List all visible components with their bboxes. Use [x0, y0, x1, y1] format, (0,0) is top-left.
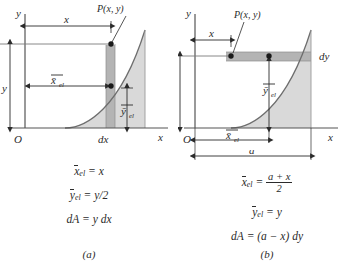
- leader-line-p-a: [112, 16, 126, 42]
- y-axis-label-a: y: [15, 7, 21, 19]
- dimension-label-xel-a: x̄ el: [50, 74, 64, 89]
- panel-caption-a: (a): [0, 248, 178, 260]
- origin-label-a: O: [14, 133, 22, 145]
- equation-xel-b: xel = a + x2: [178, 172, 356, 195]
- equation-xel-a: xel = x: [0, 166, 178, 178]
- svg-text:x̄: x̄: [225, 129, 231, 141]
- y-axis-label-b: y: [185, 7, 191, 19]
- svg-text:ȳ: ȳ: [262, 84, 269, 96]
- leader-line-p-b: [233, 22, 244, 53]
- figure-panel-b: y x O P(x, y) x y dy ȳ el x̄ el: [178, 0, 356, 270]
- figure-panel-a: y x O P(x, y) x y x̄ el ȳ el dx xel = x …: [0, 0, 178, 270]
- dimension-label-x-a: x: [63, 13, 69, 25]
- x-axis-label-a: x: [157, 131, 163, 143]
- svg-text:el: el: [59, 81, 64, 89]
- point-p-a: [108, 41, 113, 46]
- strip-label-dx: dx: [98, 133, 109, 145]
- equation-da-a: dA = y dx: [0, 214, 178, 226]
- point-p-b: [228, 53, 233, 58]
- diagram-a: y x O P(x, y) x y x̄ el ȳ el dx: [0, 0, 178, 150]
- svg-text:el: el: [234, 136, 239, 144]
- point-p-label-b: P(x, y): [233, 9, 261, 21]
- diagram-b: y x O P(x, y) x y dy ȳ el x̄ el: [178, 0, 356, 150]
- dimension-label-xel-b: x̄ el: [225, 129, 239, 144]
- origin-label-b: O: [183, 133, 191, 145]
- point-centroid-element-b: [266, 53, 271, 58]
- panel-caption-b: (b): [178, 248, 356, 260]
- x-axis-label-b: x: [327, 131, 333, 143]
- dimension-label-x-b: x: [208, 27, 214, 39]
- svg-text:el: el: [271, 91, 276, 99]
- dimension-label-a: a: [249, 150, 255, 156]
- equation-yel-b: yel = y: [178, 207, 356, 219]
- strip-label-dy: dy: [319, 50, 330, 62]
- equation-block-a: xel = x yel = y/2 dA = y dx: [0, 166, 178, 238]
- dimension-a-group: a: [178, 150, 356, 172]
- svg-text:x̄: x̄: [50, 74, 56, 86]
- equation-da-b: dA = (a − x) dy: [178, 231, 356, 243]
- equation-yel-a: yel = y/2: [0, 190, 178, 202]
- svg-text:el: el: [129, 112, 134, 120]
- equation-block-b: xel = a + x2 yel = y dA = (a − x) dy: [178, 172, 356, 255]
- area-region-b: [231, 30, 311, 128]
- figure-sheet: y x O P(x, y) x y x̄ el ȳ el dx xel = x …: [0, 0, 356, 270]
- point-centroid-element-a: [108, 83, 113, 88]
- dimension-label-y-a: y: [1, 82, 7, 94]
- point-p-label-a: P(x, y): [96, 3, 124, 15]
